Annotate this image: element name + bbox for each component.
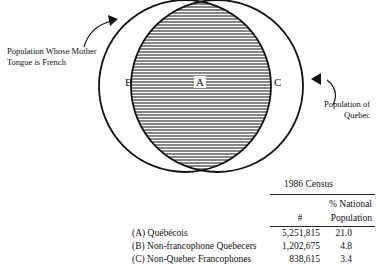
table-row-count: 1,202,675 [262,241,320,251]
header-pct-line1: % National [310,199,372,209]
table-title-rule [270,194,375,195]
table-row-pct: 4.8 [330,241,352,251]
table-row-label: (B) Non-francophone Quebecers [132,241,257,251]
table-title: 1986 Census [284,179,333,189]
table-row-pct: 3.4 [330,254,352,264]
table-row-count: 5,251,815 [262,228,320,238]
table-row-label: (C) Non-Quebec Francophones [132,254,251,264]
header-pct-line2: Population [310,213,372,223]
table-row-count: 838,615 [262,254,320,264]
table-row-pct: 21.0 [330,228,352,238]
header-count: # [290,213,310,223]
table-row-label: (A) Québécois [132,228,188,238]
table-header-rule [270,226,375,227]
